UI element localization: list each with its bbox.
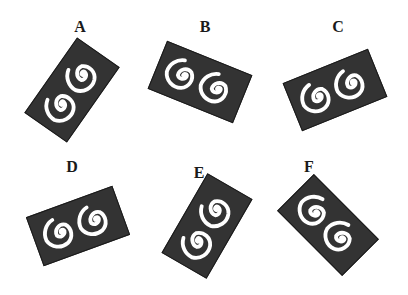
option-tile-e[interactable] [161,173,252,279]
option-label-d: D [66,158,78,176]
double-spiral-icon [26,39,119,141]
option-label-b: B [200,18,211,36]
double-spiral-icon [279,176,378,275]
option-tile-f[interactable] [277,174,379,276]
option-label-f: F [304,158,314,176]
option-tile-a[interactable] [24,37,119,142]
double-spiral-icon [149,42,251,122]
double-spiral-icon [163,175,251,278]
double-spiral-icon [27,187,129,265]
option-tile-c[interactable] [283,49,388,132]
option-tile-b[interactable] [148,41,253,124]
option-label-a: A [74,18,86,36]
double-spiral-icon [284,50,386,130]
option-tile-d[interactable] [26,186,130,266]
option-label-c: C [332,18,344,36]
